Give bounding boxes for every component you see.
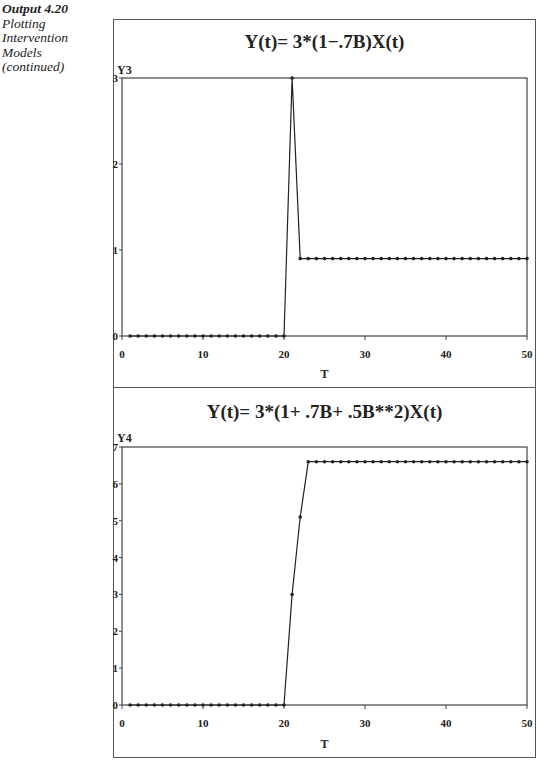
- data-point: [363, 257, 367, 261]
- series-line: [130, 78, 527, 336]
- data-point: [460, 257, 464, 261]
- y-axis-label: Y4: [117, 431, 132, 445]
- data-point: [347, 460, 351, 464]
- data-point: [469, 257, 473, 261]
- data-point: [371, 257, 375, 261]
- x-tick-label: 40: [441, 348, 453, 360]
- data-point: [226, 703, 230, 707]
- data-point: [185, 334, 189, 338]
- x-axis-label: T: [320, 737, 328, 751]
- y-tick-label: 0: [113, 699, 119, 711]
- data-point: [128, 334, 132, 338]
- y-tick-label: 3: [113, 72, 119, 84]
- x-tick-label: 50: [522, 348, 534, 360]
- x-tick-label: 20: [279, 717, 291, 729]
- x-tick-label: 10: [198, 348, 210, 360]
- data-point: [315, 257, 319, 261]
- x-tick-label: 30: [360, 348, 372, 360]
- data-point: [517, 460, 521, 464]
- data-point: [169, 703, 173, 707]
- data-point: [517, 257, 521, 261]
- y-axis-label: Y3: [117, 63, 132, 77]
- data-point: [274, 703, 278, 707]
- data-point: [469, 460, 473, 464]
- data-point: [501, 257, 505, 261]
- data-point: [493, 460, 497, 464]
- plot-area: [122, 447, 527, 705]
- data-point: [136, 703, 140, 707]
- data-point: [420, 460, 424, 464]
- data-point: [282, 334, 286, 338]
- data-point: [250, 703, 254, 707]
- data-point: [323, 257, 327, 261]
- chart-title: Y(t)= 3*(1+ .7B+ .5B**2)X(t): [207, 401, 443, 423]
- x-tick-label: 20: [279, 348, 291, 360]
- data-point: [452, 257, 456, 261]
- data-point: [193, 334, 197, 338]
- y-tick-label: 2: [113, 158, 119, 170]
- data-point: [201, 703, 205, 707]
- data-point: [282, 703, 286, 707]
- data-point: [339, 460, 343, 464]
- data-point: [161, 703, 165, 707]
- data-point: [153, 334, 157, 338]
- data-point: [460, 460, 464, 464]
- data-point: [136, 334, 140, 338]
- x-tick-label: 30: [360, 717, 372, 729]
- data-point: [250, 334, 254, 338]
- chart-title: Y(t)= 3*(1−.7B)X(t): [245, 31, 405, 53]
- data-point: [177, 334, 181, 338]
- data-point: [501, 460, 505, 464]
- data-point: [525, 257, 529, 261]
- data-point: [307, 460, 311, 464]
- x-axis-label: T: [320, 367, 328, 381]
- plot-area: [122, 78, 527, 336]
- y-tick-label: 4: [113, 552, 119, 564]
- data-point: [509, 460, 513, 464]
- data-point: [452, 460, 456, 464]
- data-point: [355, 460, 359, 464]
- data-point: [444, 257, 448, 261]
- data-point: [331, 257, 335, 261]
- data-point: [485, 257, 489, 261]
- series-line: [130, 462, 527, 705]
- data-point: [201, 334, 205, 338]
- data-point: [226, 334, 230, 338]
- x-tick-label: 10: [198, 717, 210, 729]
- data-point: [396, 460, 400, 464]
- data-point: [363, 460, 367, 464]
- data-point: [185, 703, 189, 707]
- data-point: [485, 460, 489, 464]
- data-point: [412, 257, 416, 261]
- y-tick-label: 0: [113, 330, 119, 342]
- data-point: [347, 257, 351, 261]
- data-point: [436, 460, 440, 464]
- x-tick-label: 40: [441, 717, 453, 729]
- data-point: [145, 334, 149, 338]
- data-point: [266, 703, 270, 707]
- data-point: [217, 703, 221, 707]
- y-tick-label: 3: [113, 588, 119, 600]
- data-point: [420, 257, 424, 261]
- data-point: [193, 703, 197, 707]
- chart-panel-1: Y(t)= 3*(1−.7B)X(t)Y3012301020304050T: [113, 31, 534, 381]
- data-point: [339, 257, 343, 261]
- data-point: [217, 334, 221, 338]
- data-point: [412, 460, 416, 464]
- y-tick-label: 1: [113, 662, 119, 674]
- data-point: [331, 460, 335, 464]
- data-point: [177, 703, 181, 707]
- data-point: [493, 257, 497, 261]
- data-point: [509, 257, 513, 261]
- chart-panel-2: Y(t)= 3*(1+ .7B+ .5B**2)X(t)Y40123456701…: [113, 401, 534, 751]
- data-point: [298, 257, 302, 261]
- data-point: [379, 460, 383, 464]
- data-point: [477, 257, 481, 261]
- charts-canvas: Y(t)= 3*(1−.7B)X(t)Y3012301020304050TY(t…: [0, 0, 558, 770]
- data-point: [290, 76, 294, 80]
- data-point: [477, 460, 481, 464]
- data-point: [444, 460, 448, 464]
- data-point: [323, 460, 327, 464]
- data-point: [242, 703, 246, 707]
- data-point: [274, 334, 278, 338]
